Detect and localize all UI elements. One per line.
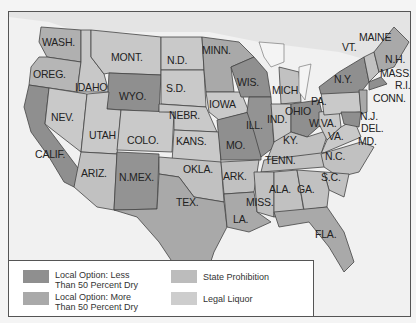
legend-label: Legal Liquor — [203, 292, 313, 304]
label-tex: TEX. — [176, 197, 199, 208]
map-legend: Local Option: Less Than 50 Percent Dry L… — [8, 260, 314, 317]
label-md: MD. — [358, 136, 377, 147]
legend-label: Local Option: More Than 50 Percent Dry — [55, 292, 150, 312]
label-ala: ALA. — [269, 184, 291, 195]
label-mass: MASS. — [380, 68, 411, 79]
label-idaho: IDAHO — [75, 82, 107, 93]
label-iowa: IOWA — [209, 99, 236, 110]
label-la: LA. — [233, 214, 248, 225]
label-calif: CALIF. — [35, 149, 65, 160]
label-utah: UTAH — [89, 130, 116, 141]
label-wash: WASH. — [42, 37, 75, 48]
label-del: DEL. — [361, 123, 384, 134]
label-ohio: OHIO — [285, 106, 311, 117]
label-mich: MICH — [272, 85, 298, 96]
label-mont: MONT. — [111, 52, 143, 63]
label-conn: CONN. — [373, 93, 406, 104]
label-ariz: ARIZ. — [81, 168, 107, 179]
label-nc: N.C. — [325, 151, 345, 162]
legend-label: Local Option: Less Than 50 Percent Dry — [55, 270, 150, 290]
label-ri: R.I. — [395, 80, 411, 91]
label-wva: W.VA. — [309, 118, 336, 129]
label-nebr: NEBR. — [169, 110, 200, 121]
swatch-medium — [23, 292, 49, 305]
label-sd: S.D. — [166, 83, 186, 94]
label-nev: NEV. — [51, 112, 74, 123]
label-nmex: N.MEX. — [119, 172, 154, 183]
label-tenn: TENN. — [265, 155, 296, 166]
swatch-dark — [23, 270, 49, 283]
label-kans: KANS. — [176, 136, 207, 147]
label-ky: KY. — [283, 135, 298, 146]
legend-item-more-than-50-dry: Local Option: More Than 50 Percent Dry — [23, 292, 150, 312]
label-fla: FLA. — [315, 229, 336, 240]
label-mo: MO. — [226, 140, 245, 151]
label-nj: N.J. — [360, 111, 378, 122]
label-maine: MAINE — [359, 32, 391, 43]
label-wyo: WYO. — [119, 91, 146, 102]
label-nh: N.H. — [385, 54, 405, 65]
legend-item-state-prohibition: State Prohibition — [171, 270, 313, 283]
label-oreg: OREG. — [33, 69, 66, 80]
legend-item-legal-liquor: Legal Liquor — [171, 292, 313, 305]
label-pa: PA. — [311, 96, 327, 107]
swatch-lightest — [171, 292, 197, 305]
label-ga: GA. — [297, 184, 315, 195]
label-ny: N.Y. — [334, 74, 352, 85]
label-minn: MINN. — [202, 45, 231, 56]
label-nd: N.D. — [167, 55, 187, 66]
label-ill: ILL. — [246, 120, 263, 131]
legend-label: State Prohibition — [203, 270, 313, 282]
label-miss: MISS. — [246, 197, 274, 208]
label-sc: S.C. — [321, 172, 341, 183]
label-vt: VT. — [342, 42, 357, 53]
legend-item-less-than-50-dry: Local Option: Less Than 50 Percent Dry — [23, 270, 150, 290]
label-colo: COLO. — [127, 135, 159, 146]
swatch-light — [171, 270, 197, 283]
label-va: VA. — [328, 131, 344, 142]
label-wis: WIS. — [237, 77, 259, 88]
label-okla: OKLA. — [183, 164, 213, 175]
label-ark: ARK. — [223, 171, 247, 182]
